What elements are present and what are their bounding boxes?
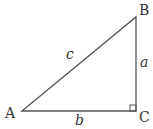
triangle-abc [22, 17, 136, 111]
side-label-c: c [66, 46, 74, 62]
side-label-a: a [140, 54, 148, 70]
side-label-b: b [75, 112, 84, 128]
vertex-label-a: A [4, 105, 16, 121]
right-angle-marker [130, 105, 136, 111]
vertex-label-b: B [139, 2, 149, 18]
right-triangle-diagram: A B C a b c [0, 0, 153, 129]
vertex-label-c: C [139, 109, 150, 125]
